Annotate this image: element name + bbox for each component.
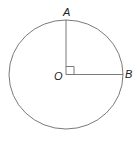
- circle-diagram: A O B: [0, 0, 137, 142]
- label-a: A: [62, 6, 70, 18]
- label-o: O: [54, 70, 63, 82]
- label-b: B: [125, 68, 132, 80]
- right-angle-marker: [66, 67, 74, 75]
